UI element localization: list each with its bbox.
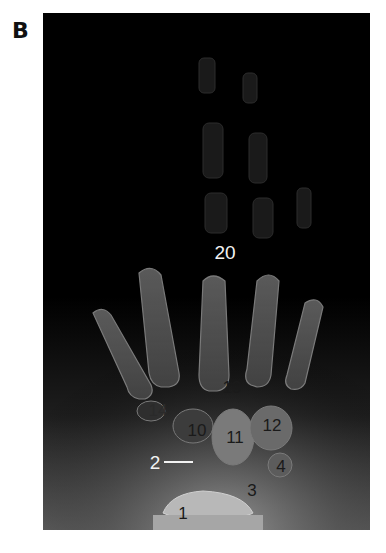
label-11: 11 [226,429,244,446]
label-12: 12 [263,417,282,434]
panel-letter: B [12,18,29,43]
label-2-pointer-line [164,461,193,463]
label-20: 20 [214,244,235,261]
label-14: 14 [149,402,168,419]
label-4: 4 [276,458,285,475]
hand-xray-image: 20 19 14 10 11 12 2 4 3 1 [43,13,370,530]
label-1: 1 [178,505,187,522]
label-19: 19 [223,379,242,396]
label-3: 3 [247,482,256,499]
xray-drawing [43,13,370,530]
label-10: 10 [188,422,207,439]
label-2: 2 [150,454,161,471]
